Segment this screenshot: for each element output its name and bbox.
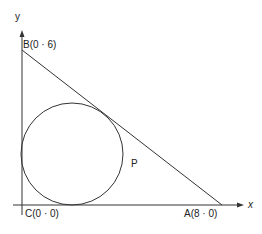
y-axis-arrow-icon	[20, 30, 25, 37]
point-b-label: B(0 · 6)	[23, 39, 56, 50]
incircle	[21, 103, 123, 205]
hypotenuse-ab	[22, 50, 222, 205]
y-axis-label: y	[15, 11, 20, 22]
point-a-label: A(8 · 0)	[184, 208, 217, 219]
x-axis-arrow-icon	[237, 203, 244, 208]
x-axis-label: x	[247, 199, 254, 210]
geometry-diagram: y x B(0 · 6) C(0 · 0) A(8 · 0) P	[0, 0, 262, 234]
point-p-label: P	[131, 158, 138, 169]
point-c-label: C(0 · 0)	[25, 208, 59, 219]
